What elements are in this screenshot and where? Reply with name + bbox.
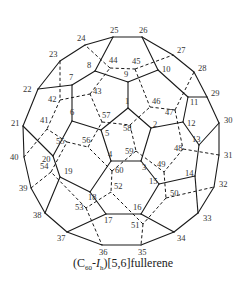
bond-34-35 <box>141 232 174 245</box>
atom-label-37: 37 <box>57 233 66 243</box>
atom-label-12: 12 <box>187 118 196 128</box>
bond-50-51 <box>143 198 166 224</box>
bond-5-6 <box>72 121 101 130</box>
atom-label-23: 23 <box>49 49 58 59</box>
atom-label-6: 6 <box>70 107 74 117</box>
bond-42-43 <box>60 94 90 100</box>
atom-label-7: 7 <box>69 72 73 82</box>
bond-18-19 <box>60 177 90 192</box>
bond-33-34 <box>174 213 198 232</box>
atom-label-41: 41 <box>40 115 49 125</box>
bond-13-30 <box>199 123 219 145</box>
atom-label-5: 5 <box>105 128 109 138</box>
bond-58-46 <box>130 107 150 125</box>
atom-label-8: 8 <box>87 60 91 70</box>
bond-19-38 <box>45 177 60 213</box>
atom-label-32: 32 <box>219 179 228 189</box>
bond-7-8 <box>72 71 95 85</box>
hidden-edges <box>24 45 219 245</box>
atom-label-57: 57 <box>102 110 111 120</box>
atom-label-30: 30 <box>224 115 233 125</box>
bond-27-28 <box>173 55 194 72</box>
bond-23-24 <box>60 45 85 61</box>
bond-17-37 <box>67 214 106 232</box>
bond-13-14 <box>195 145 199 176</box>
atom-label-39: 39 <box>19 183 28 193</box>
atom-label-55: 55 <box>56 136 65 146</box>
atom-label-1: 1 <box>125 96 129 106</box>
atom-label-60: 60 <box>115 165 124 175</box>
atom-label-21: 21 <box>11 118 20 128</box>
atom-label-24: 24 <box>77 33 86 43</box>
atom-label-35: 35 <box>138 247 147 256</box>
atom-label-56: 56 <box>82 135 91 145</box>
atom-label-49: 49 <box>157 159 166 169</box>
bond-57-43 <box>90 94 102 122</box>
atom-label-22: 22 <box>23 84 32 94</box>
atom-label-53: 53 <box>75 202 84 212</box>
atom-label-26: 26 <box>139 25 148 35</box>
bond-32-33 <box>198 187 214 213</box>
bond-54-39 <box>31 172 51 188</box>
bond-15-16 <box>141 184 159 214</box>
atom-label-27: 27 <box>177 45 186 55</box>
diagram-caption: (C60-Ih)[5,6]fullerene <box>0 256 246 272</box>
atom-label-46: 46 <box>152 96 161 106</box>
caption-subscript-atoms: 60 <box>85 264 92 272</box>
atom-label-28: 28 <box>198 63 207 73</box>
atom-label-43: 43 <box>93 86 102 96</box>
atom-labels: 1234567891011121314151617181920212223242… <box>10 25 233 256</box>
atom-label-36: 36 <box>99 247 108 256</box>
atom-label-52: 52 <box>114 181 123 191</box>
atom-label-14: 14 <box>185 168 194 178</box>
bond-29-30 <box>207 97 219 123</box>
atom-label-33: 33 <box>203 213 212 223</box>
atom-label-16: 16 <box>133 202 142 212</box>
visible-edges <box>23 37 219 245</box>
bond-28-29 <box>194 72 207 97</box>
atom-label-29: 29 <box>211 88 220 98</box>
bond-60-52 <box>111 171 112 192</box>
atom-label-9: 9 <box>124 69 128 79</box>
atom-label-34: 34 <box>177 233 186 243</box>
atom-label-50: 50 <box>170 188 179 198</box>
bond-21-22 <box>23 89 38 126</box>
bond-42-41 <box>47 100 60 129</box>
atom-label-51: 51 <box>131 220 140 230</box>
bond-16-34 <box>141 214 174 232</box>
caption-suffix: )[5,6]fullerene <box>103 256 173 270</box>
atom-label-10: 10 <box>162 64 171 74</box>
bond-49-50 <box>164 172 166 198</box>
atom-label-11: 11 <box>190 97 198 107</box>
atom-label-25: 25 <box>110 25 119 35</box>
bond-48-31 <box>183 149 219 155</box>
atom-label-2: 2 <box>153 119 157 129</box>
atom-label-13: 13 <box>192 134 201 144</box>
atom-label-48: 48 <box>174 143 183 153</box>
bond-45-46 <box>135 69 150 107</box>
atom-label-18: 18 <box>88 192 97 202</box>
atom-label-59: 59 <box>125 146 134 156</box>
bond-41-40 <box>24 129 47 157</box>
bond-10-11 <box>158 70 188 97</box>
atom-label-47: 47 <box>165 107 174 117</box>
atom-label-15: 15 <box>149 176 158 186</box>
bond-4-18 <box>90 161 111 192</box>
bond-40-21 <box>23 126 24 157</box>
atom-label-19: 19 <box>64 166 73 176</box>
atom-label-40: 40 <box>10 152 19 162</box>
atom-label-3: 3 <box>142 162 146 172</box>
fullerene-diagram: 1234567891011121314151617181920212223242… <box>0 0 246 256</box>
bond-22-7 <box>38 85 72 89</box>
atom-label-42: 42 <box>48 94 57 104</box>
atom-label-38: 38 <box>33 210 42 220</box>
atom-label-31: 31 <box>224 150 233 160</box>
bond-2-3 <box>141 128 151 161</box>
bond-8-25 <box>95 37 113 71</box>
bond-20-21 <box>23 126 53 156</box>
bond-9-10 <box>128 70 158 82</box>
bond-22-23 <box>38 61 60 89</box>
bond-37-38 <box>45 213 67 232</box>
caption-prefix: (C <box>73 256 85 270</box>
atom-label-45: 45 <box>132 56 141 66</box>
